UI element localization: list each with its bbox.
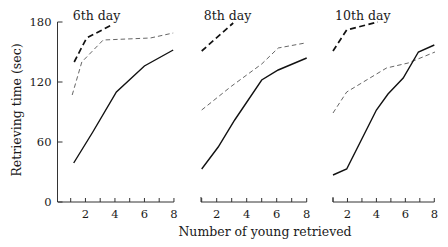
series-thick-dashed bbox=[202, 23, 234, 51]
x-tick-label: 4 bbox=[243, 207, 250, 221]
y-tick-label: 120 bbox=[30, 75, 52, 89]
panel-10th-day: 246810th day bbox=[333, 8, 438, 221]
series-thin-dashed bbox=[202, 43, 306, 110]
series-solid bbox=[74, 50, 174, 163]
y-tick-label: 180 bbox=[30, 15, 52, 29]
x-tick-label: 4 bbox=[111, 207, 118, 221]
retrieving-time-chart: 060120180 24686th day24688th day246810th… bbox=[0, 0, 448, 247]
series-solid bbox=[333, 45, 434, 175]
x-tick-label: 2 bbox=[213, 207, 220, 221]
series-thin-dashed bbox=[333, 52, 435, 113]
x-tick-label: 8 bbox=[170, 207, 177, 221]
x-tick-label: 8 bbox=[303, 207, 310, 221]
panel-6th-day: 24686th day bbox=[58, 8, 178, 221]
y-tick-label: 0 bbox=[44, 195, 51, 209]
x-tick-label: 4 bbox=[373, 207, 380, 221]
y-axis: 060120180 bbox=[30, 15, 63, 209]
panel-title: 10th day bbox=[335, 8, 391, 23]
x-tick-label: 2 bbox=[344, 207, 351, 221]
panel-title: 6th day bbox=[73, 8, 121, 23]
panels: 24686th day24688th day246810th day bbox=[58, 8, 438, 221]
series-thick-dashed bbox=[333, 22, 378, 51]
panel-title: 8th day bbox=[204, 8, 252, 23]
series-solid bbox=[202, 58, 307, 169]
y-axis-title: Retrieving time (sec) bbox=[9, 43, 24, 176]
x-tick-label: 2 bbox=[82, 207, 89, 221]
x-tick-label: 8 bbox=[431, 207, 438, 221]
x-tick-label: 6 bbox=[141, 207, 148, 221]
x-tick-label: 6 bbox=[273, 207, 280, 221]
y-tick-label: 60 bbox=[37, 135, 52, 149]
x-axis-title: Number of young retrieved bbox=[178, 224, 351, 239]
series-thick-dashed bbox=[74, 25, 112, 62]
x-tick-label: 6 bbox=[402, 207, 409, 221]
panel-8th-day: 24688th day bbox=[201, 8, 310, 221]
